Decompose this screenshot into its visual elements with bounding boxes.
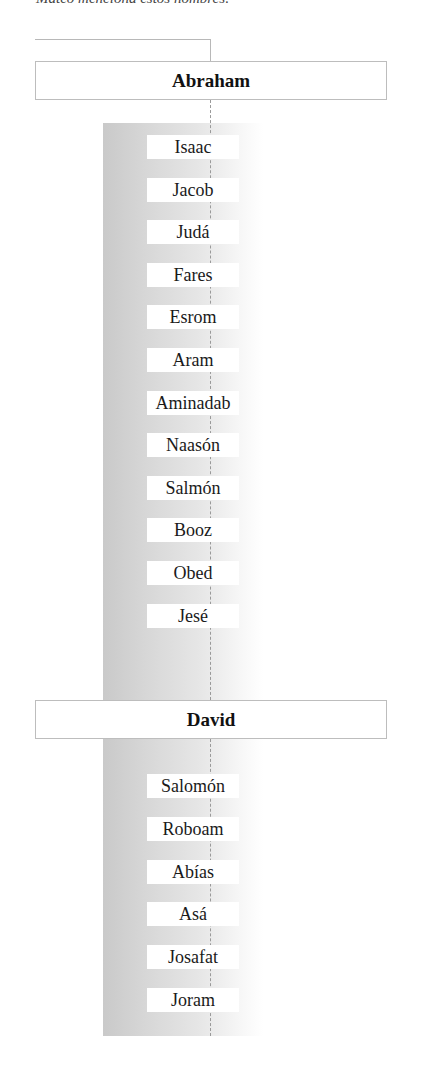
header-box-david: David (35, 700, 387, 739)
list-item: Salmón (147, 476, 239, 500)
list-item: Isaac (147, 135, 239, 159)
list-item: Esrom (147, 305, 239, 329)
list-item: Fares (147, 263, 239, 287)
list-item: Naasón (147, 433, 239, 457)
connector-line-top-vertical (210, 39, 211, 61)
list-item: Jesé (147, 604, 239, 628)
list-item: Jacob (147, 178, 239, 202)
list-item: Asá (147, 902, 239, 926)
list-item: Josafat (147, 945, 239, 969)
list-item: Abías (147, 860, 239, 884)
list-item: Aminadab (147, 391, 239, 415)
list-item: Booz (147, 518, 239, 542)
list-item: Aram (147, 348, 239, 372)
list-item: Obed (147, 561, 239, 585)
list-item: Salomón (147, 774, 239, 798)
intro-text: Mateo menciona estos nombres: (36, 0, 230, 7)
header-box-abraham: Abraham (35, 61, 387, 100)
list-item: Joram (147, 988, 239, 1012)
list-item: Roboam (147, 817, 239, 841)
connector-line-top (35, 39, 210, 40)
list-item: Judá (147, 220, 239, 244)
